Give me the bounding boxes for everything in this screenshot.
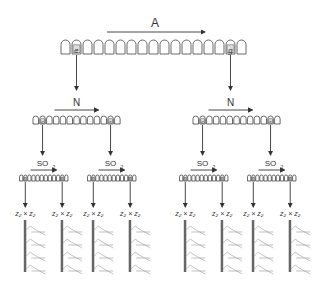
product-branch	[26, 265, 45, 274]
product-branch	[186, 265, 205, 274]
top-row-cell	[215, 40, 224, 54]
mid-row-cell	[193, 116, 199, 124]
product-label: z₂ × z₂	[82, 210, 104, 217]
product-stack-bar	[129, 220, 132, 272]
small-row-cell	[28, 175, 31, 181]
small-row-cell	[96, 175, 99, 181]
top-row-cell	[149, 40, 158, 54]
product-label: z₂ × z₂	[279, 210, 301, 217]
enzyme-label-so2: SO	[197, 159, 209, 168]
top-row-cell	[138, 40, 147, 54]
top-row-cell	[204, 40, 213, 54]
product-stack-bar	[24, 220, 27, 272]
top-row-cell	[171, 40, 180, 54]
small-row-cell	[248, 175, 251, 181]
small-row-cell	[256, 175, 259, 181]
product-branch	[63, 226, 82, 235]
product-branch	[63, 239, 82, 248]
small-row-cell	[212, 175, 215, 181]
product-branch	[26, 239, 45, 248]
product-branch	[223, 226, 242, 235]
mid-row-cell	[275, 116, 281, 124]
marked-cell	[25, 177, 26, 180]
top-row-cell	[127, 40, 136, 54]
small-row-cell	[260, 175, 263, 181]
cleavage-diagram: AegNeeNeeSO2z₂ × z₂z₂ × z₂SO2z₂ × z₂z₂ ×…	[0, 0, 321, 284]
small-row-cell	[284, 175, 287, 181]
mid-row-cell	[213, 116, 219, 124]
product-branch	[131, 265, 150, 274]
small-row-cell	[225, 175, 228, 181]
small-row-cell	[48, 175, 51, 181]
mid-row-cell	[94, 116, 100, 124]
product-branch	[291, 265, 310, 274]
product-branch	[26, 226, 45, 235]
mid-row-cell	[247, 116, 253, 124]
enzyme-label-so2: SO	[265, 159, 277, 168]
product-stack-bar	[92, 220, 95, 272]
product-branch	[254, 252, 273, 261]
enzyme-subscript: 2	[53, 164, 56, 170]
top-row-cell	[105, 40, 114, 54]
product-branch	[131, 252, 150, 261]
enzyme-subscript: 2	[121, 164, 124, 170]
product-branch	[186, 239, 205, 248]
mid-row-cell	[254, 116, 260, 124]
mid-row-cell	[234, 116, 240, 124]
small-row-cell	[108, 175, 111, 181]
product-branch	[63, 265, 82, 274]
product-branch	[291, 239, 310, 248]
mid-row-cell	[115, 116, 121, 124]
mid-row-cell	[101, 116, 107, 124]
enzyme-label-n: N	[73, 97, 80, 108]
small-row-cell	[32, 175, 35, 181]
enzyme-label-so2: SO	[37, 159, 49, 168]
mid-row-cell	[33, 116, 39, 124]
product-branch	[254, 265, 273, 274]
small-row-cell	[65, 175, 68, 181]
small-row-cell	[36, 175, 39, 181]
product-stack-bar	[184, 220, 187, 272]
enzyme-label-so2: SO	[105, 159, 117, 168]
product-branch	[131, 239, 150, 248]
mid-row-cell	[60, 116, 65, 124]
product-branch	[26, 252, 45, 261]
product-branch	[63, 252, 82, 261]
top-row-cell	[61, 40, 70, 54]
small-row-cell	[216, 175, 219, 181]
product-branch	[94, 252, 113, 261]
small-row-cell	[44, 175, 47, 181]
enzyme-subscript: 2	[281, 164, 284, 170]
small-row-cell	[100, 175, 103, 181]
product-label: z₂ × z₂	[14, 210, 36, 217]
mid-row-cell	[81, 116, 87, 124]
small-row-cell	[112, 175, 115, 181]
product-label: z₂ × z₂	[51, 210, 73, 217]
top-row-cell	[182, 40, 191, 54]
mid-row-cell	[67, 116, 73, 124]
enzyme-label-n: N	[227, 97, 234, 108]
top-row-cell	[94, 40, 103, 54]
small-row-cell	[133, 175, 136, 181]
product-branch	[223, 265, 242, 274]
mid-row-cell	[47, 116, 53, 124]
marked-cell	[93, 177, 94, 180]
product-branch	[186, 252, 205, 261]
product-label: z₂ × z₂	[174, 210, 196, 217]
small-row-cell	[293, 175, 296, 181]
small-row-cell	[56, 175, 59, 181]
mid-row-cell	[261, 116, 267, 124]
product-branch	[94, 226, 113, 235]
small-row-cell	[196, 175, 199, 181]
marked-cell	[222, 177, 223, 180]
mid-row-cell	[74, 116, 80, 124]
cell-mark-label: g	[228, 46, 233, 55]
small-row-cell	[268, 175, 271, 181]
small-row-cell	[272, 175, 275, 181]
mid-row-cell	[241, 116, 247, 124]
small-row-cell	[124, 175, 127, 181]
mid-row-cell	[227, 116, 233, 124]
small-row-cell	[116, 175, 119, 181]
product-branch	[94, 239, 113, 248]
product-stack-bar	[61, 220, 64, 272]
